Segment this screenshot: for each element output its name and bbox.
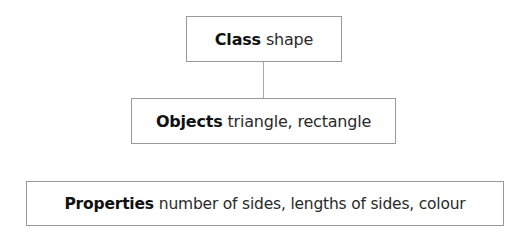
class-value: shape	[266, 30, 313, 49]
properties-value: number of sides, lengths of sides, colou…	[159, 195, 466, 213]
properties-label: Properties	[64, 195, 153, 213]
properties-box: Properties number of sides, lengths of s…	[26, 181, 504, 226]
class-label: Class	[215, 30, 261, 49]
class-box: Class shape	[186, 16, 342, 62]
objects-label: Objects	[156, 112, 223, 131]
connector-class-to-objects	[263, 62, 264, 98]
objects-value: triangle, rectangle	[228, 112, 372, 131]
objects-box: Objects triangle, rectangle	[131, 98, 396, 144]
